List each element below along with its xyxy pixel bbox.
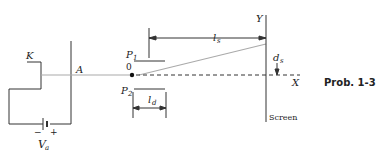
deflected-beam xyxy=(139,44,266,75)
origin-label: 0 xyxy=(126,62,132,72)
origin-point xyxy=(130,73,134,77)
plus-sign: + xyxy=(50,127,58,137)
screen-distance-dimension xyxy=(149,28,266,58)
cathode-circuit xyxy=(9,41,71,130)
deflection-label: d xyxy=(273,52,279,63)
deflection-sub: s xyxy=(280,57,284,65)
screen-label: Screen xyxy=(269,113,297,122)
plate-p2-sub: 2 xyxy=(127,90,133,98)
x-axis-label: X xyxy=(291,77,300,88)
anode-label: A xyxy=(75,64,83,75)
screen-distance-label: l xyxy=(213,32,216,43)
voltage-sub: a xyxy=(45,144,49,152)
crt-deflection-diagram: K A P 1 0 P 2 l d l s Y X d s Screen − +… xyxy=(0,0,376,158)
plate-p1-label: P xyxy=(125,49,133,60)
screen-distance-sub: s xyxy=(217,37,221,45)
figure-caption: Prob. 1-3 xyxy=(324,77,376,88)
plate-length-label: l xyxy=(148,94,151,105)
plate-p2-label: P xyxy=(120,85,128,96)
deflection-arrow xyxy=(275,63,279,75)
plate-p1-sub: 1 xyxy=(133,54,137,62)
y-axis-label: Y xyxy=(256,13,264,24)
cathode-label: K xyxy=(25,50,34,61)
minus-sign: − xyxy=(34,127,42,137)
plate-length-sub: d xyxy=(152,99,157,107)
